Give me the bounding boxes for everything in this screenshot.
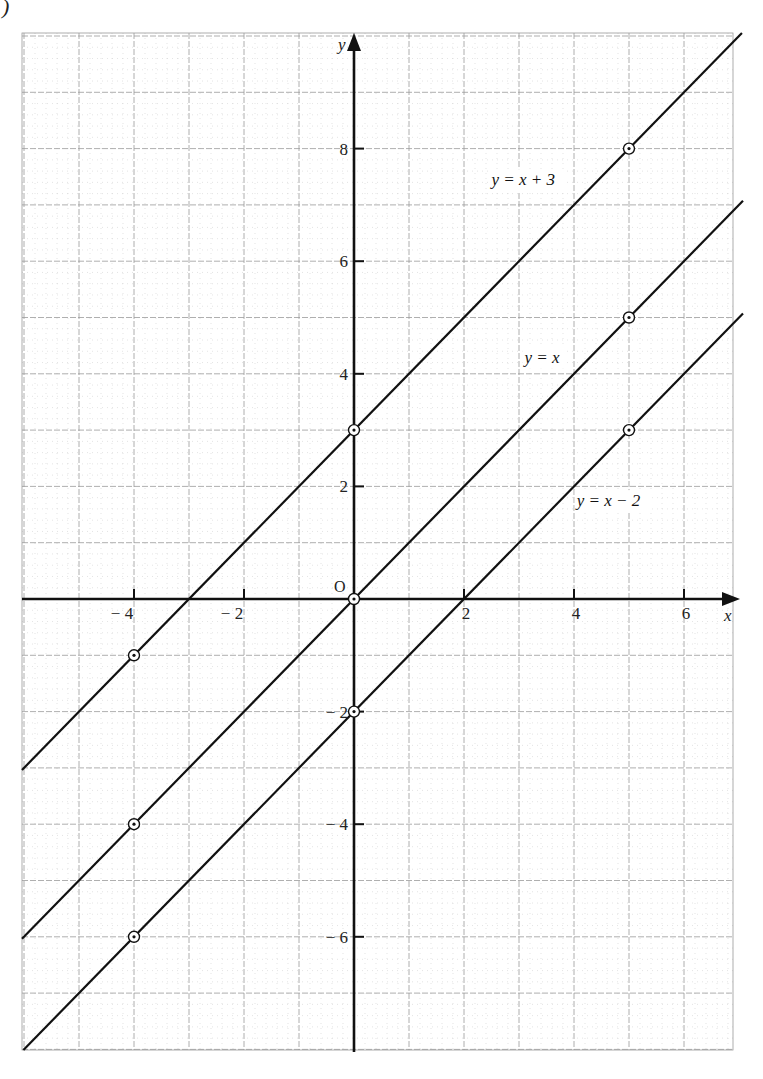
- y-tick-label: − 4: [326, 815, 349, 834]
- y-tick-label: 4: [340, 365, 349, 384]
- plotted-point-dot: [132, 935, 135, 938]
- x-axis-label: x: [723, 606, 732, 625]
- y-tick-label: 8: [340, 140, 349, 159]
- plotted-point-dot: [627, 316, 630, 319]
- grid-major: [22, 33, 733, 1050]
- grid-minor: [22, 33, 733, 1050]
- x-axis-arrow-icon: [722, 592, 740, 606]
- y-axis-label: y: [336, 35, 346, 54]
- y-tick-label: 6: [340, 252, 349, 271]
- y-tick-label: − 6: [326, 928, 348, 947]
- series-label-2: y = x − 2: [575, 491, 641, 510]
- plotted-point-dot: [627, 147, 630, 150]
- plotted-point-dot: [352, 429, 355, 432]
- series-labels: y = x + 3y = xy = x − 2: [490, 169, 653, 512]
- linear-graph-chart: x y O − 4− 22468642− 2− 4− 6 y = x + 3y …: [0, 0, 763, 1079]
- x-tick-label: − 2: [221, 604, 243, 623]
- plotted-point-dot: [132, 654, 135, 657]
- plotted-point-dot: [132, 823, 135, 826]
- y-tick-label: 2: [340, 477, 349, 496]
- x-tick-label: − 4: [111, 604, 134, 623]
- plotted-point-dot: [352, 710, 355, 713]
- plotted-point-dot: [627, 429, 630, 432]
- series-lines: [22, 33, 743, 1050]
- origin-label: O: [334, 578, 346, 595]
- x-tick-label: 4: [572, 604, 581, 623]
- plotted-point-dot: [352, 597, 355, 600]
- axis-ticks: − 4− 22468642− 2− 4− 6: [111, 140, 690, 947]
- x-tick-label: 6: [682, 604, 691, 623]
- x-tick-label: 2: [462, 604, 471, 623]
- y-tick-label: − 2: [326, 703, 348, 722]
- series-label-0: y = x + 3: [490, 170, 556, 189]
- grid-border: [22, 33, 733, 1050]
- series-label-1: y = x: [523, 348, 561, 367]
